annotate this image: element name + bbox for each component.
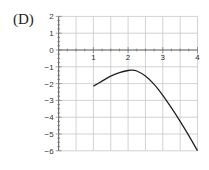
y-tick-label: 1: [49, 29, 54, 38]
y-tick-label: −5: [45, 130, 55, 139]
y-tick-label: −2: [45, 80, 55, 89]
y-tick-label: 0: [49, 46, 54, 55]
grid: [59, 16, 198, 150]
y-tick-label: −4: [45, 113, 55, 122]
line-chart: 210−1−2−3−4−5−61234: [0, 0, 209, 170]
x-tick-label: 1: [91, 53, 96, 62]
y-tick-label: −1: [45, 63, 55, 72]
y-tick-label: −6: [45, 147, 55, 156]
x-tick-label: 4: [195, 53, 200, 62]
x-tick-label: 3: [161, 53, 166, 62]
x-tick-label: 2: [126, 53, 131, 62]
y-tick-label: 2: [49, 12, 54, 21]
y-tick-label: −3: [45, 96, 55, 105]
